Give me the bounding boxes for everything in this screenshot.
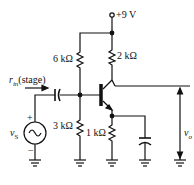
resistor-re [109,123,115,143]
ground-icon [106,160,118,166]
resistor-r1 [77,50,83,70]
ground-icon [74,160,86,166]
resistor-r2 [77,118,83,138]
ground-icon [174,160,186,166]
ground-icon [29,160,41,166]
supply-label: +9 V [116,10,136,20]
rin-label: rin(stage) [9,75,46,88]
circuit-diagram: +9 V 6 kΩ 2 kΩ 3 kΩ 1 kΩ rin(stage) vS +… [0,0,194,185]
source-label: vS [10,128,18,141]
re-label: 1 kΩ [86,128,106,138]
supply-terminal [110,13,114,17]
schematic-lines [0,0,194,185]
source-minus: − [28,146,34,156]
r1-label: 6 kΩ [53,54,73,64]
r2-label: 3 kΩ [53,121,73,131]
vo-label: vo [184,128,192,141]
resistor-rc [109,48,115,67]
junction-dot [110,31,114,35]
ground-icon [139,160,151,166]
rc-label: 2 kΩ [117,51,137,61]
junction-dot [78,93,82,97]
source-plus: + [27,113,33,123]
